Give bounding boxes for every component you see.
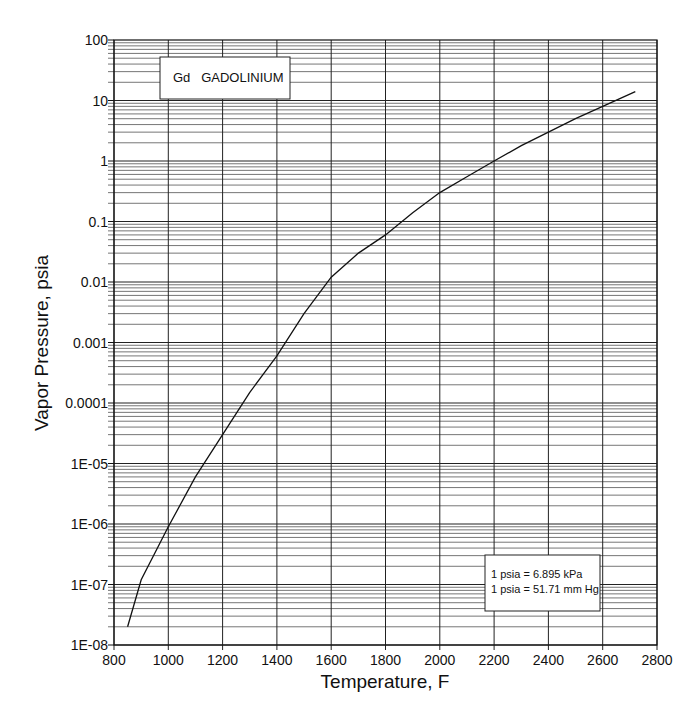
conversion-kpa: 1 psia = 6.895 kPa xyxy=(491,568,583,580)
y-tick-label: 1E-06 xyxy=(71,516,109,532)
y-tick-label: 1E-07 xyxy=(71,577,109,593)
element-title: Gd GADOLINIUM xyxy=(173,70,284,85)
x-axis-title: Temperature, F xyxy=(321,671,450,692)
vapor-pressure-chart: 1E-081E-071E-061E-050.00010.0010.010.111… xyxy=(0,0,700,724)
y-tick-label: 1E-05 xyxy=(71,456,109,472)
y-axis-ticks: 1E-081E-071E-061E-050.00010.0010.010.111… xyxy=(65,32,114,653)
y-tick-label: 0.0001 xyxy=(65,395,108,411)
vapor-pressure-curve xyxy=(128,92,636,627)
x-axis-ticks: 8001000120014001600180020002200240026002… xyxy=(102,652,672,668)
x-tick-label: 1000 xyxy=(153,652,184,668)
conversion-mmhg: 1 psia = 51.71 mm Hg xyxy=(491,583,599,595)
x-tick-label: 800 xyxy=(102,652,126,668)
y-tick-label: 10 xyxy=(92,93,108,109)
y-tick-label: 0.01 xyxy=(81,274,108,290)
x-tick-label: 1600 xyxy=(316,652,347,668)
x-tick-label: 1200 xyxy=(207,652,238,668)
x-tick-label: 2800 xyxy=(641,652,672,668)
x-tick-label: 2000 xyxy=(424,652,455,668)
y-tick-label: 0.1 xyxy=(89,214,109,230)
y-tick-label: 1E-08 xyxy=(71,637,109,653)
y-tick-label: 0.001 xyxy=(73,335,108,351)
x-tick-label: 1400 xyxy=(261,652,292,668)
y-axis-title: Vapor Pressure, psia xyxy=(31,255,52,431)
element-title-box: Gd GADOLINIUM xyxy=(160,57,290,99)
conversion-box: 1 psia = 6.895 kPa 1 psia = 51.71 mm Hg xyxy=(485,555,600,611)
x-tick-label: 2200 xyxy=(479,652,510,668)
y-tick-label: 100 xyxy=(85,32,109,48)
x-tick-label: 2400 xyxy=(533,652,564,668)
x-tick-label: 1800 xyxy=(370,652,401,668)
x-tick-label: 2600 xyxy=(587,652,618,668)
y-tick-label: 1 xyxy=(100,153,108,169)
